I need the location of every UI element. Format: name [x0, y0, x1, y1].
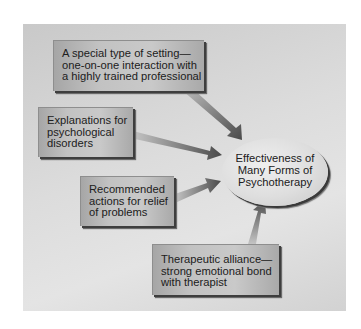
target-text: Many Forms of: [222, 164, 328, 176]
arrow-setting-to-target: [183, 88, 242, 140]
arrow-actions-to-target: [175, 178, 221, 203]
factor-text: A special type of setting—: [62, 48, 204, 60]
factor-box-actions: Recommended actions for relief of proble…: [80, 176, 174, 226]
factor-box-explanations: Explanations for psychological disorders: [38, 107, 133, 157]
factor-box-setting: A special type of setting— one-on-one in…: [53, 40, 204, 91]
factor-text: Recommended: [89, 184, 174, 196]
arrow-explanations-to-target: [133, 131, 222, 160]
factor-text: of problems: [89, 207, 174, 219]
factor-text: Explanations for: [47, 115, 133, 127]
factor-text: a highly trained professional: [62, 71, 204, 83]
target-text: Effectiveness of: [222, 152, 328, 164]
factor-text: disorders: [47, 138, 133, 150]
factor-text: with therapist: [161, 277, 279, 289]
factor-text: Therapeutic alliance—: [161, 254, 279, 266]
factor-box-alliance: Therapeutic alliance— strong emotional b…: [152, 244, 279, 295]
target-ellipse: Effectiveness of Many Forms of Psychothe…: [222, 138, 328, 206]
arrow-alliance-to-target: [248, 200, 266, 244]
target-text: Psychotherapy: [222, 176, 328, 188]
